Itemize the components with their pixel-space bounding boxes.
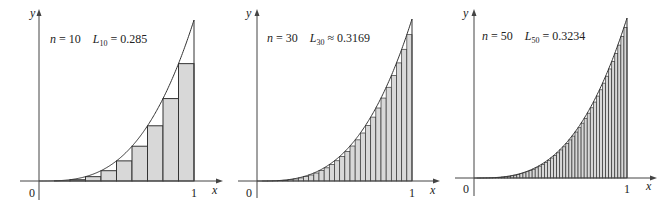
x-axis-label-1: x <box>212 183 217 198</box>
riemann-rect <box>590 108 593 178</box>
riemann-rect <box>314 173 319 181</box>
riemann-rect <box>581 123 584 178</box>
riemann-rect <box>407 35 412 181</box>
riemann-rect <box>371 117 376 181</box>
riemann-rect <box>606 76 609 178</box>
riemann-rect <box>391 76 396 181</box>
riemann-rect <box>541 164 544 178</box>
riemann-rect <box>520 174 523 178</box>
riemann-rect <box>566 143 569 178</box>
riemann-rect <box>575 132 578 178</box>
riemann-rect <box>86 177 102 181</box>
riemann-rect <box>360 133 365 181</box>
riemann-rect <box>526 172 529 178</box>
riemann-rect <box>615 53 618 178</box>
riemann-rect <box>319 171 324 181</box>
riemann-rect <box>345 152 350 181</box>
riemann-rect <box>544 162 547 178</box>
x-axis-label-3: x <box>646 179 651 194</box>
y-axis-label-1: y <box>30 6 35 21</box>
riemann-rect <box>366 125 371 181</box>
riemann-rect <box>551 158 554 178</box>
annotation-2: n = 30 L30 ≈ 0.3169 <box>267 31 370 47</box>
x-tick-0-3: 0 <box>463 182 469 197</box>
riemann-rect <box>587 113 590 178</box>
x-axis-label-2: x <box>430 183 435 198</box>
riemann-rect <box>163 99 179 181</box>
riemann-rect <box>612 61 615 178</box>
riemann-rect <box>609 69 612 178</box>
riemann-rect <box>593 102 596 178</box>
x-tick-1-2: 1 <box>409 186 415 201</box>
riemann-rect <box>529 171 532 178</box>
riemann-rect <box>569 140 572 178</box>
riemann-rect <box>563 147 566 178</box>
riemann-rect <box>340 156 345 181</box>
riemann-rect <box>386 87 391 181</box>
riemann-rect <box>523 173 526 178</box>
riemann-rect <box>621 36 624 178</box>
x-tick-0-1: 0 <box>29 186 35 201</box>
riemann-rect <box>324 168 329 181</box>
riemann-rect <box>350 146 355 181</box>
x-tick-0-2: 0 <box>246 186 252 201</box>
riemann-rect <box>329 165 334 181</box>
riemann-rect <box>335 161 340 181</box>
riemann-rect <box>179 64 195 181</box>
riemann-rect <box>532 169 535 178</box>
y-axis-arrow-icon <box>255 9 260 16</box>
riemann-rect <box>402 49 407 181</box>
riemann-rect <box>578 128 581 178</box>
riemann-rect <box>355 140 360 181</box>
riemann-rect <box>309 175 314 181</box>
riemann-rect <box>535 168 538 178</box>
y-axis-label-2: y <box>246 6 251 21</box>
riemann-rect <box>618 45 621 178</box>
riemann-rect <box>148 126 164 181</box>
riemann-rect <box>603 83 606 178</box>
riemann-rect <box>554 156 557 178</box>
riemann-rect <box>538 166 541 178</box>
riemann-rect <box>547 160 550 178</box>
riemann-rect <box>572 136 575 178</box>
riemann-rect <box>376 108 381 181</box>
y-axis-arrow-icon <box>37 9 42 16</box>
riemann-rect <box>584 118 587 178</box>
riemann-rect <box>596 96 599 178</box>
annotation-3: n = 50 L50 = 0.3234 <box>482 29 585 45</box>
riemann-rect <box>599 90 602 178</box>
riemann-rect <box>101 171 117 181</box>
riemann-rect <box>397 63 402 181</box>
riemann-rect <box>560 150 563 178</box>
riemann-rect <box>557 153 560 178</box>
riemann-rect <box>304 177 309 181</box>
x-tick-1-1: 1 <box>191 186 197 201</box>
riemann-rect <box>132 146 148 181</box>
y-axis-label-3: y <box>463 6 468 21</box>
x-tick-1-3: 1 <box>624 182 630 197</box>
riemann-rect <box>381 98 386 181</box>
riemann-rect <box>517 174 520 178</box>
riemann-rect <box>117 161 133 181</box>
y-axis-arrow-icon <box>472 9 477 16</box>
annotation-1: n = 10 L10 = 0.285 <box>50 32 147 48</box>
